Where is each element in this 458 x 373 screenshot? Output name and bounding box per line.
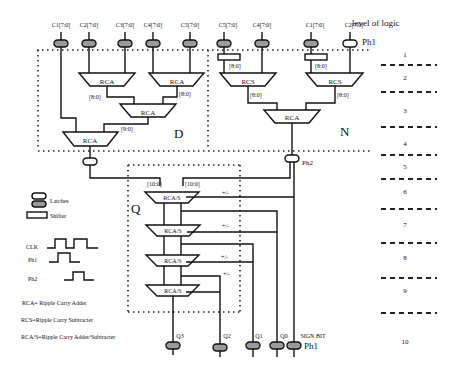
level-of-logic-column: level of logic 1 2 3 4 5 6 7 8 9 10 bbox=[352, 18, 437, 346]
rcas-label: RCA/S bbox=[164, 288, 181, 294]
rca-label: RCA bbox=[170, 78, 184, 86]
rcas-label: RCA/S bbox=[164, 258, 181, 264]
level-9: 9 bbox=[403, 287, 407, 295]
input-n-c4: C4[7:0] bbox=[253, 22, 272, 29]
output-q2-label: Q2 bbox=[223, 333, 230, 339]
wire-rcas-2-3 bbox=[164, 236, 181, 255]
wire-n2-diff bbox=[306, 86, 335, 110]
latch-icon bbox=[285, 155, 299, 162]
legend-shifter: Shifter bbox=[50, 213, 66, 219]
output-sign-bit-label: SIGN BIT bbox=[300, 333, 326, 339]
level-7: 7 bbox=[403, 221, 407, 229]
n-subtractor-tree: C5[7:0] C4[7:0] C1[7:0] C2[7:0] Ph1 [8:0… bbox=[217, 22, 376, 167]
bus-label: [8:0] bbox=[229, 63, 241, 70]
legend-ph1: Ph1 bbox=[28, 257, 37, 263]
rcs-label: RCS bbox=[328, 78, 341, 86]
wire-d2-sum bbox=[163, 86, 177, 104]
rca-label: RCA bbox=[285, 114, 299, 122]
legend-ph2: Ph2 bbox=[28, 276, 37, 282]
latch-icon bbox=[217, 40, 231, 47]
latch-icon bbox=[183, 40, 197, 47]
wire-rcas-3-4 bbox=[164, 266, 181, 285]
level-4: 4 bbox=[403, 140, 407, 148]
pm-label: +/- bbox=[221, 254, 228, 260]
level-8: 8 bbox=[403, 254, 407, 262]
definition-rcs: RCS=Ripple Carry Subtracter bbox=[21, 317, 93, 323]
latch-icon bbox=[287, 342, 301, 349]
output-q1-label: Q1 bbox=[255, 333, 262, 339]
divider-circuit-diagram: level of logic 1 2 3 4 5 6 7 8 9 10 D N … bbox=[0, 0, 458, 373]
outputs: Q3 Q2 Q1 Q0 SIGN BIT Ph1 bbox=[166, 333, 326, 351]
legend-clk: CLK bbox=[26, 244, 39, 250]
pm-label: +/- bbox=[223, 271, 230, 277]
wire-rcas-1-2 bbox=[164, 203, 181, 225]
q-adder-subtractor-chain: [10:0] [10:0] RCA/S +/- RCA/S +/- RCA/S … bbox=[145, 162, 294, 357]
output-q3-label: Q3 bbox=[176, 333, 183, 339]
level-3: 3 bbox=[403, 107, 407, 115]
region-boundaries: D N Q bbox=[37, 50, 372, 312]
input-c2: C2[7:0] bbox=[80, 22, 99, 29]
ph2-label: Ph2 bbox=[302, 159, 313, 167]
ph1-top-label: Ph1 bbox=[362, 37, 376, 47]
bus-label: [10:0] bbox=[185, 181, 200, 188]
legend-latches: Latches bbox=[50, 198, 69, 204]
wire-d1-sum bbox=[107, 86, 134, 104]
latch-icon bbox=[270, 342, 284, 349]
region-q-label: Q bbox=[131, 201, 141, 216]
bus-label: [8:0] bbox=[315, 63, 327, 70]
latch-icon bbox=[213, 344, 227, 351]
latch-icon bbox=[54, 40, 68, 47]
shifter-icon bbox=[305, 54, 327, 60]
rca-label: RCA bbox=[83, 137, 97, 145]
input-n-c2: C2[7:0] bbox=[345, 22, 364, 29]
rcas-label: RCA/S bbox=[163, 195, 180, 201]
ph2-waveform-icon bbox=[64, 272, 94, 280]
level-2: 2 bbox=[403, 74, 407, 82]
latch-legend-icon bbox=[32, 193, 46, 199]
bus-label: [8:0] bbox=[337, 92, 349, 99]
input-c5: C5[7:0] bbox=[181, 22, 200, 29]
ph1-waveform-icon bbox=[49, 253, 80, 262]
rcs-label: RCS bbox=[241, 78, 254, 86]
latch-icon bbox=[166, 342, 180, 349]
shifter-icon bbox=[218, 54, 240, 60]
pm-label: +/- bbox=[222, 223, 229, 229]
legend: Latches Shifter CLK Ph1 Ph2 RCA= Ripple … bbox=[21, 193, 115, 340]
clk-waveform-icon bbox=[47, 239, 98, 248]
region-n-label: N bbox=[340, 124, 350, 139]
bus-label: [8:0] bbox=[250, 92, 262, 99]
latch-icon bbox=[146, 40, 160, 47]
latch-icon bbox=[83, 158, 97, 165]
bus-label: [8:0] bbox=[179, 91, 191, 98]
bus-label: [8:0] bbox=[89, 94, 101, 101]
level-1: 1 bbox=[403, 51, 407, 59]
latch-icon bbox=[304, 40, 318, 47]
output-q0-label: Q0 bbox=[280, 333, 287, 339]
rca-label: RCA bbox=[100, 78, 114, 86]
region-d-label: D bbox=[174, 126, 183, 141]
level-5: 5 bbox=[403, 163, 407, 171]
latch-icon bbox=[255, 40, 269, 47]
ph1-bottom-label: Ph1 bbox=[304, 341, 318, 351]
input-n-c1: C1[7:0] bbox=[306, 22, 325, 29]
latch-icon bbox=[343, 40, 357, 47]
level-10: 10 bbox=[402, 338, 410, 346]
rcas-label: RCA/S bbox=[164, 228, 181, 234]
wire-n1-diff bbox=[248, 86, 277, 110]
latch-icon bbox=[246, 342, 260, 349]
bus-label: [9:0] bbox=[121, 126, 133, 133]
input-n-c5: C5[7:0] bbox=[219, 22, 238, 29]
latch-icon bbox=[82, 40, 96, 47]
level-6: 6 bbox=[403, 188, 407, 196]
input-c3: C3[7:0] bbox=[116, 22, 135, 29]
definition-rca: RCA= Ripple Carry Adder bbox=[22, 300, 87, 306]
latch-icon bbox=[118, 40, 132, 47]
input-c4: C4[7:0] bbox=[144, 22, 163, 29]
pm-label: +/- bbox=[222, 190, 229, 196]
latch-filled-legend-icon bbox=[32, 201, 46, 207]
bus-label: [10:0] bbox=[147, 181, 162, 188]
rca-label: RCA bbox=[141, 109, 155, 117]
definition-rcas: RCA/S=Ripple Carry Adder/Subtracter bbox=[21, 334, 115, 340]
input-c1: C1[7:0] bbox=[52, 22, 71, 29]
shifter-legend-icon bbox=[27, 212, 47, 218]
